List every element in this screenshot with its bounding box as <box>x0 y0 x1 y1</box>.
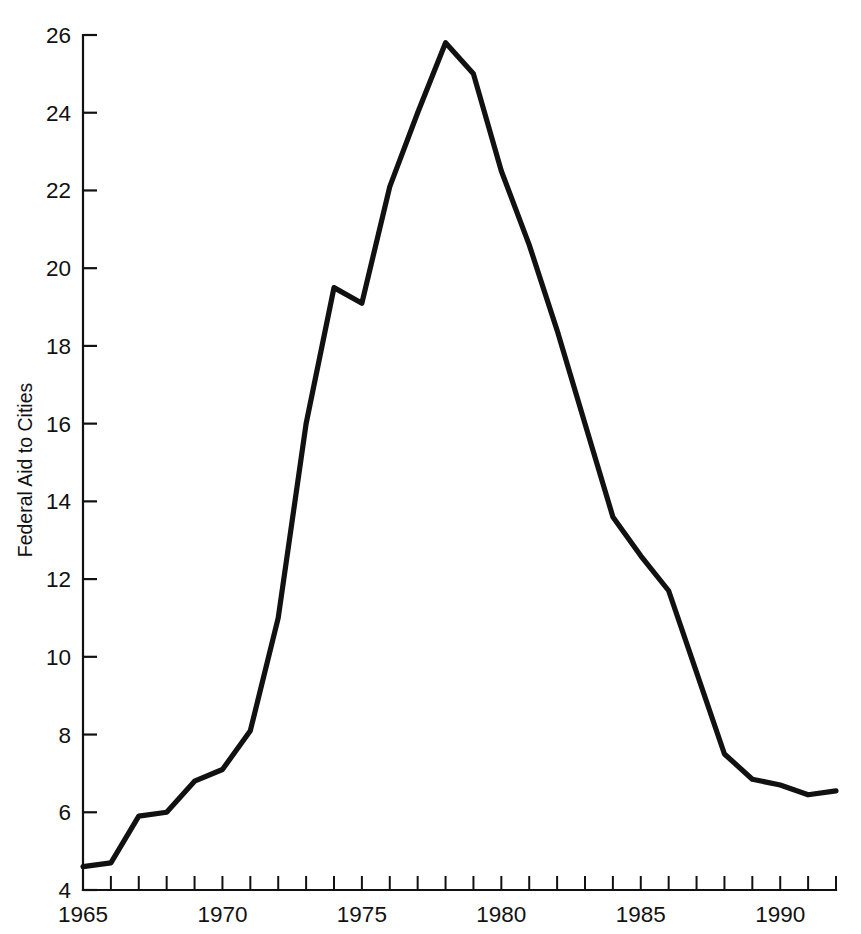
chart-container: Federal Aid to Cities 468101214161820222… <box>0 0 861 934</box>
y-tick-label-14: 14 <box>46 489 71 514</box>
y-tick-label-22: 22 <box>46 178 71 203</box>
y-tick-label-10: 10 <box>46 645 71 670</box>
line-chart: Federal Aid to Cities 468101214161820222… <box>0 0 861 934</box>
x-tick-label-1990: 1990 <box>755 902 805 927</box>
x-tick-label-1980: 1980 <box>476 902 526 927</box>
y-tick-label-4: 4 <box>58 878 71 903</box>
y-axis-label-text: Federal Aid to Cities <box>14 383 36 558</box>
y-tick-label-6: 6 <box>58 800 71 825</box>
x-tick-label-1975: 1975 <box>337 902 387 927</box>
y-tick-label-26: 26 <box>46 23 71 48</box>
x-tick-label-1965: 1965 <box>58 902 108 927</box>
y-tick-label-24: 24 <box>46 101 71 126</box>
y-tick-label-20: 20 <box>46 256 71 281</box>
y-tick-label-8: 8 <box>58 723 71 748</box>
y-tick-label-12: 12 <box>46 567 71 592</box>
x-tick-label-1985: 1985 <box>616 902 666 927</box>
chart-background <box>0 0 861 934</box>
y-tick-label-16: 16 <box>46 412 71 437</box>
x-tick-label-1970: 1970 <box>197 902 247 927</box>
y-tick-label-18: 18 <box>46 334 71 359</box>
y-axis-label: Federal Aid to Cities <box>14 383 36 558</box>
